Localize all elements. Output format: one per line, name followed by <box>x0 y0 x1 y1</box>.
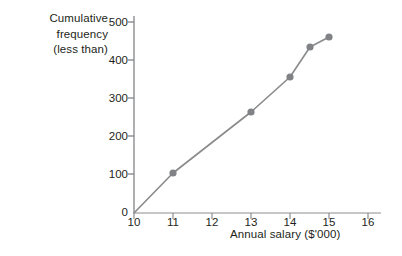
data-point-markers <box>169 33 332 176</box>
cumulative-frequency-line <box>134 37 329 213</box>
cumulative-frequency-chart: Cumulative frequency (less than) 500 400… <box>0 0 402 256</box>
data-point-15 <box>325 33 332 40</box>
data-point-14-5 <box>306 43 313 50</box>
data-point-11 <box>169 169 176 176</box>
plot-area <box>0 0 402 256</box>
data-point-14 <box>286 73 293 80</box>
x-tick-marks <box>134 213 368 219</box>
y-tick-marks <box>128 22 134 174</box>
data-point-13 <box>247 108 254 115</box>
